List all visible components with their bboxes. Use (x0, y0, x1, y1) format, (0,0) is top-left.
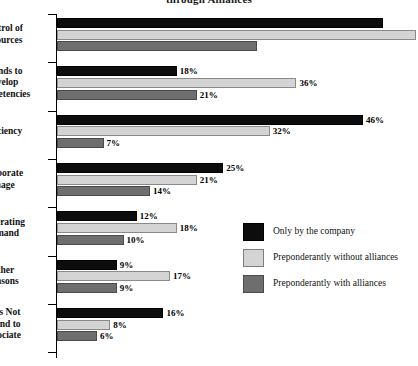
category-label: Control ofResources (0, 23, 52, 46)
category-label: CorporateImage (0, 168, 52, 191)
category-label: Efficiency (0, 126, 52, 137)
legend-label: Only by the company (273, 226, 355, 236)
bar (57, 235, 124, 245)
legend-swatch-icon (243, 275, 264, 293)
bar (57, 126, 270, 136)
legend-swatch-icon (243, 223, 264, 241)
y-axis-tick (48, 159, 56, 160)
category-label: OtherReasons (0, 265, 52, 288)
category-label: Intends toDevelopCompetencies (0, 66, 52, 100)
bar-value-label: 18% (180, 66, 198, 76)
category-label: GeneratingDemand (0, 217, 52, 240)
bar (57, 186, 150, 196)
y-axis-tick (48, 62, 56, 63)
bar-value-label: 21% (200, 175, 218, 185)
y-axis-tick (48, 256, 56, 257)
bar-value-label: 17% (173, 271, 191, 281)
bar-chart: through Alliances Control ofResourcesInt… (0, 0, 418, 366)
bar (57, 308, 163, 318)
plot-area: Control ofResourcesIntends toDevelopComp… (0, 14, 418, 360)
chart-title: through Alliances (0, 0, 418, 5)
bar-value-label: 7% (107, 138, 121, 148)
bar-value-label: 16% (166, 308, 184, 318)
y-axis-tick (48, 352, 56, 353)
bar-value-label: 25% (226, 163, 244, 173)
bar (57, 260, 117, 270)
bar (57, 41, 257, 51)
bar-value-label: 6% (100, 331, 114, 341)
y-axis-tick (48, 207, 56, 208)
bar-value-label: 10% (127, 235, 145, 245)
bar (57, 90, 197, 100)
bar (57, 283, 117, 293)
y-axis-tick (48, 111, 56, 112)
bar (57, 223, 177, 233)
bar (57, 331, 97, 341)
bar (57, 320, 110, 330)
y-axis-tick (48, 304, 56, 305)
bar-value-label: 9% (120, 283, 134, 293)
bar (57, 211, 137, 221)
category-label: Does NotIntend toAssociate (0, 307, 52, 341)
bar (57, 66, 177, 76)
bar-value-label: 18% (180, 223, 198, 233)
bar-value-label: 9% (120, 260, 134, 270)
bar (57, 138, 104, 148)
bar (57, 271, 170, 281)
bar (57, 18, 383, 28)
bar-value-label: 21% (200, 90, 218, 100)
bar (57, 78, 296, 88)
bar (57, 30, 416, 40)
legend-swatch-icon (243, 249, 264, 267)
y-axis-tick (48, 14, 56, 15)
bar-value-label: 14% (153, 186, 171, 196)
bar-value-label: 46% (366, 115, 384, 125)
bar-value-label: 8% (113, 320, 127, 330)
bar (57, 163, 223, 173)
bar-value-label: 32% (273, 126, 291, 136)
bar (57, 115, 363, 125)
legend-label: Preponderantly without alliances (273, 252, 398, 262)
legend-label: Preponderantly with alliances (273, 278, 386, 288)
bar-value-label: 12% (140, 211, 158, 221)
bar (57, 175, 197, 185)
bar-value-label: 36% (299, 78, 317, 88)
